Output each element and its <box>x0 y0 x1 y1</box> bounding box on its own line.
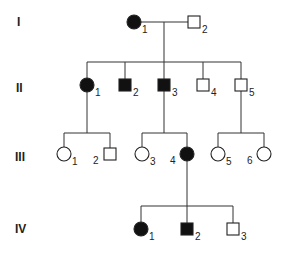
individual-number: 1 <box>142 24 148 35</box>
individual-number: 5 <box>249 87 255 98</box>
individual-number: 5 <box>226 156 232 167</box>
individual-ii-4: 4 <box>197 79 217 98</box>
individual-number: 3 <box>150 156 156 167</box>
individual-ii-5: 5 <box>235 79 255 98</box>
individual-number: 2 <box>202 24 208 35</box>
affected-male-square-icon <box>119 79 131 91</box>
generation-label-iv: IV <box>15 222 26 236</box>
individual-iv-3: 3 <box>227 223 247 242</box>
individual-i-1: 1 <box>127 15 148 35</box>
individual-number: 1 <box>72 156 78 167</box>
connector-lines <box>64 22 264 223</box>
individual-number: 4 <box>211 87 217 98</box>
unaffected-male-square-icon <box>235 79 247 91</box>
unaffected-female-circle-icon <box>257 147 271 161</box>
unaffected-male-square-icon <box>227 223 239 235</box>
affected-female-circle-icon <box>127 15 141 29</box>
generation-label-iii: III <box>15 150 25 164</box>
generation-label-ii: II <box>16 81 23 95</box>
individual-iii-5: 5 <box>211 147 232 167</box>
pedigree-chart: I II III IV 1212345123456123 <box>0 0 285 256</box>
individual-number: 6 <box>247 155 253 166</box>
individual-number: 2 <box>93 155 99 166</box>
affected-male-square-icon <box>158 79 170 91</box>
individual-number: 4 <box>170 155 176 166</box>
individual-ii-3: 3 <box>158 79 178 98</box>
unaffected-female-circle-icon <box>211 147 225 161</box>
affected-female-circle-icon <box>180 147 194 161</box>
individual-i-2: 2 <box>188 16 208 35</box>
unaffected-female-circle-icon <box>135 147 149 161</box>
individual-iv-1: 1 <box>134 222 155 242</box>
affected-female-circle-icon <box>134 222 148 236</box>
individual-ii-1: 1 <box>80 78 101 98</box>
affected-male-square-icon <box>181 223 193 235</box>
individual-iii-1: 1 <box>57 147 78 167</box>
individual-iv-2: 2 <box>181 223 201 242</box>
individual-number: 3 <box>172 87 178 98</box>
individual-number: 1 <box>95 87 101 98</box>
unaffected-male-square-icon <box>188 16 200 28</box>
individual-iii-2: 2 <box>93 148 116 166</box>
individual-number: 3 <box>241 231 247 242</box>
unaffected-female-circle-icon <box>57 147 71 161</box>
individual-iii-3: 3 <box>135 147 156 167</box>
individual-number: 1 <box>149 231 155 242</box>
individual-number: 2 <box>195 231 201 242</box>
individual-ii-2: 2 <box>119 79 139 98</box>
affected-female-circle-icon <box>80 78 94 92</box>
individual-number: 2 <box>133 87 139 98</box>
unaffected-male-square-icon <box>104 148 116 160</box>
individual-iii-6: 6 <box>247 147 271 166</box>
individual-iii-4: 4 <box>170 147 194 166</box>
unaffected-male-square-icon <box>197 79 209 91</box>
generation-label-i: I <box>17 15 20 29</box>
